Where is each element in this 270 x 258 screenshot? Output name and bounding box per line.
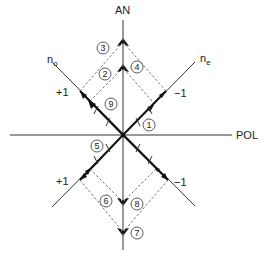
pol-label: POL	[236, 129, 258, 141]
polarization-diagram: AN POL no ne +1 −1 +1 −1 3 2 4 9 1 5 6 8…	[0, 0, 270, 258]
no-label: no	[47, 53, 58, 68]
ne-label: ne	[200, 52, 211, 67]
tick-plus1-upper: +1	[56, 86, 69, 98]
marker-6: 6	[103, 196, 108, 206]
marker-9: 9	[108, 99, 113, 109]
vector-lower-right	[123, 135, 168, 180]
an-label: AN	[115, 4, 130, 16]
marker-4: 4	[134, 62, 139, 72]
tick-plus1-lower: +1	[56, 175, 69, 187]
vector-9	[80, 91, 123, 135]
marker-7: 7	[134, 228, 139, 238]
origin-dot	[121, 133, 125, 137]
lower-projections	[80, 169, 168, 232]
marker-1: 1	[146, 120, 151, 130]
tick-minus1-upper: −1	[174, 87, 187, 99]
marker-3: 3	[100, 43, 105, 53]
marker-5: 5	[94, 141, 99, 151]
marker-8: 8	[134, 199, 139, 209]
marker-2: 2	[102, 69, 107, 79]
tick-minus1-lower: −1	[174, 176, 187, 188]
